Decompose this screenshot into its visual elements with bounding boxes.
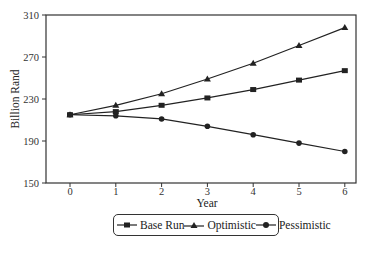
- series-line-optimistic: [70, 28, 345, 115]
- triangle-marker-icon: [184, 221, 204, 229]
- legend-item-optimistic: Optimistic: [184, 219, 256, 231]
- y-tick-label: 190: [23, 136, 39, 147]
- y-tick-label: 310: [23, 10, 39, 21]
- series-lines: [67, 24, 349, 154]
- x-tick-label: 5: [296, 186, 301, 197]
- x-tick-label: 2: [159, 186, 164, 197]
- square-marker-icon: [250, 87, 256, 92]
- x-tick-label: 1: [113, 186, 118, 197]
- x-axis: 0123456: [67, 183, 347, 197]
- square-marker-icon: [159, 103, 165, 108]
- y-axis: 150190230270310: [23, 10, 46, 189]
- circle-marker-icon: [342, 149, 348, 155]
- legend-label: Pessimistic: [279, 219, 331, 231]
- legend-label: Optimistic: [207, 219, 256, 231]
- x-tick-label: 3: [205, 186, 210, 197]
- square-marker-icon: [342, 68, 348, 73]
- triangle-marker-icon: [341, 24, 348, 30]
- square-marker-icon: [117, 221, 137, 229]
- y-tick-label: 230: [23, 94, 39, 105]
- square-marker-icon: [296, 78, 302, 83]
- x-tick-label: 0: [67, 186, 72, 197]
- y-tick-label: 150: [23, 178, 39, 189]
- circle-marker-icon: [256, 221, 276, 229]
- circle-marker-icon: [205, 124, 211, 130]
- series-line-pessimistic: [70, 115, 345, 152]
- legend-label: Base Run: [140, 219, 184, 231]
- x-tick-label: 4: [251, 186, 257, 197]
- x-tick-label: 6: [342, 186, 347, 197]
- circle-marker-icon: [113, 113, 119, 119]
- x-axis-label: Year: [196, 197, 217, 209]
- chart-legend: Base Run Optimistic Pessimistic: [113, 214, 279, 236]
- line-chart: 150190230270310 0123456 Billion Rand Yea…: [0, 0, 382, 212]
- circle-marker-icon: [250, 132, 256, 138]
- y-axis-label: Billion Rand: [9, 69, 21, 128]
- y-tick-label: 270: [23, 52, 39, 63]
- circle-marker-icon: [159, 116, 165, 122]
- circle-marker-icon: [296, 140, 302, 146]
- circle-marker-icon: [67, 112, 73, 118]
- legend-item-pessimistic: Pessimistic: [256, 219, 331, 231]
- square-marker-icon: [204, 95, 210, 100]
- legend-item-base-run: Base Run: [117, 219, 184, 231]
